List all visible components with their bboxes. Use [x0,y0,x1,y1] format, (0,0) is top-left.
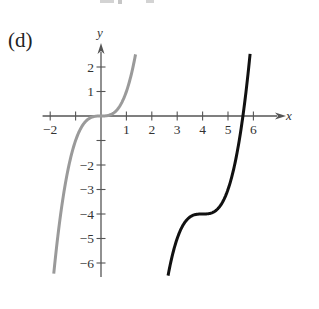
cropped-text-fragment [100,0,154,4]
y-tick-label: −5 [80,231,95,246]
x-axis-label: x [285,108,292,123]
chart: xy−2123456−6−5−4−3−212 [0,0,319,309]
x-tick-label: 1 [123,122,130,137]
y-tick-label: 2 [87,60,94,75]
x-tick-label: 6 [250,122,257,137]
curve-black-shifted-cubic [168,54,250,276]
x-tick-label: 3 [174,122,181,137]
x-tick-label: −2 [43,122,57,137]
y-tick-label: −3 [80,182,95,197]
y-axis-label: y [95,25,103,40]
y-tick-label: −6 [80,256,95,271]
y-tick-label: −2 [80,158,94,173]
x-tick-label: 4 [199,122,206,137]
y-tick-label: 1 [87,84,94,99]
x-tick-label: 5 [225,122,232,137]
y-tick-label: −4 [80,207,95,222]
curve-gray-cubic [54,54,136,273]
axes: xy−2123456−6−5−4−3−212 [43,25,292,277]
x-tick-label: 2 [148,122,155,137]
